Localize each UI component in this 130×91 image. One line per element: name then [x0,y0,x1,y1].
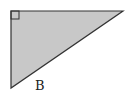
right-triangle [11,11,123,88]
label-b: B [35,78,45,91]
triangle-diagram: B [0,0,130,91]
